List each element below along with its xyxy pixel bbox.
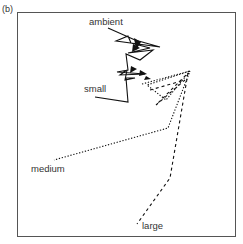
plot-frame: [18, 13, 236, 237]
label-ambient: ambient: [89, 16, 123, 27]
label-medium: medium: [31, 163, 65, 174]
label-small: small: [84, 83, 106, 94]
triangle-marker: [139, 70, 147, 76]
triangle-marker: [130, 66, 137, 73]
trajectory-diagram: ambient small medium large: [0, 0, 243, 244]
trajectory-layer: [54, 28, 190, 224]
label-large: large: [142, 220, 163, 231]
triangle-marker: [144, 76, 151, 80]
